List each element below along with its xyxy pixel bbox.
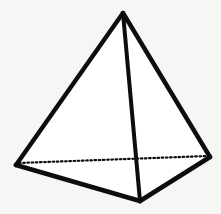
tetrahedron-figure <box>0 0 221 214</box>
figure-canvas <box>0 0 221 214</box>
